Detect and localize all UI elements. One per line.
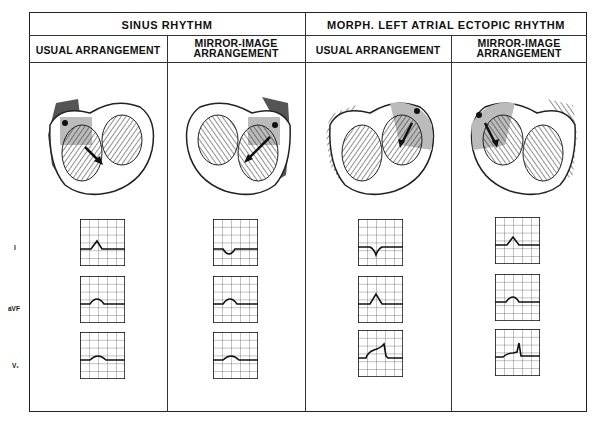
ecg-col2-lead-v1 [213,332,258,379]
ecg-col1-lead-v1 [80,332,125,379]
ecg-col3-lead-v1 [358,330,403,377]
header-sinus-rhythm: SINUS RHYTHM [29,19,305,31]
heart-diagram-sinus-mirror [180,85,300,205]
lead-label-avf: aVF [8,305,20,312]
subheader-divider [29,62,587,63]
header-divider [29,35,587,36]
col2-label-line2: ARRANGEMENT [167,48,305,58]
ecg-col1-lead-i [80,219,125,266]
col1-label: USUAL ARRANGEMENT [36,44,161,56]
column-divider-1 [167,35,168,412]
group-divider [305,12,306,412]
ecg-col3-lead-i [358,219,403,266]
subheader-col3: USUAL ARRANGEMENT [305,45,451,55]
ecg-col4-lead-avf [495,274,540,321]
col3-label: USUAL ARRANGEMENT [316,44,441,56]
lead-label-i: I [14,244,16,251]
ecg-col4-lead-i [495,217,540,264]
ecg-col2-lead-i [213,219,258,266]
heart-diagram-ectopic-usual [320,85,440,205]
heart-diagram-ectopic-mirror [465,85,585,205]
ecg-col4-lead-v1 [495,329,540,376]
subheader-col4: MIRROR-IMAGEARRANGEMENT [451,38,587,58]
subheader-col1: USUAL ARRANGEMENT [29,45,167,55]
header-ectopic-rhythm: MORPH. LEFT ATRIAL ECTOPIC RHYTHM [305,19,587,31]
ecg-col1-lead-avf [80,276,125,323]
heart-diagram-sinus-usual [40,85,160,205]
column-divider-3 [451,35,452,412]
ecg-col3-lead-avf [358,276,403,323]
ecg-col2-lead-avf [213,276,258,323]
lead-label-v1: V₁ [12,362,19,369]
col4-label-line2: ARRANGEMENT [451,48,587,58]
subheader-col2: MIRROR-IMAGEARRANGEMENT [167,38,305,58]
